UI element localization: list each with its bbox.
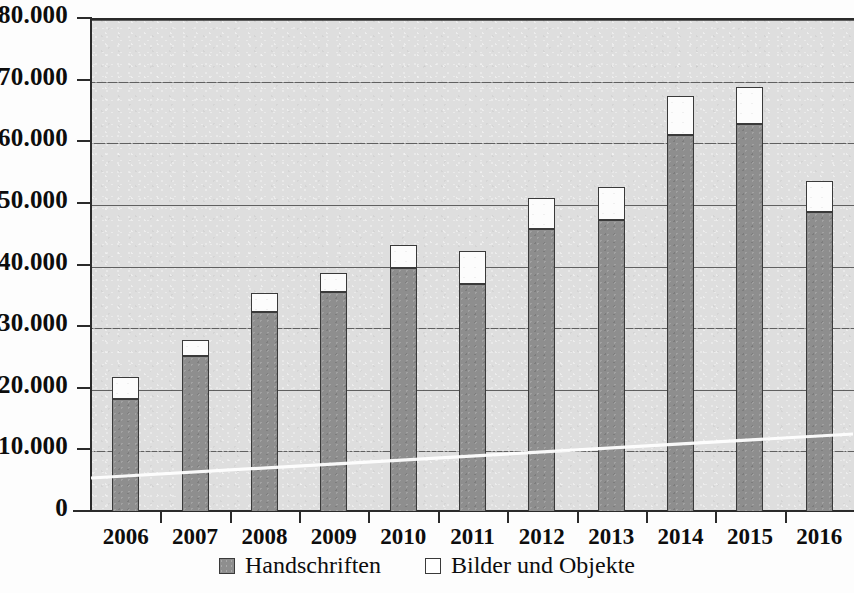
x-axis-tick <box>715 512 717 523</box>
legend-item-label: Handschriften <box>245 552 381 579</box>
legend-item-label: Bilder und Objekte <box>451 552 635 579</box>
bar-group[interactable] <box>112 377 139 511</box>
bar-group[interactable] <box>251 293 278 511</box>
x-axis-tick <box>507 512 509 523</box>
y-axis-tick-label: 80.000 <box>0 1 68 29</box>
x-axis-tick <box>160 512 162 523</box>
bar-segment-bilder-und-objekte[interactable] <box>806 181 833 212</box>
y-axis-tick-label: 70.000 <box>0 63 68 91</box>
y-axis-tick <box>77 140 91 142</box>
white-square-icon <box>425 558 441 574</box>
y-axis-tick <box>77 17 91 19</box>
x-axis-tick-label: 2013 <box>571 524 651 550</box>
bar-segment-bilder-und-objekte[interactable] <box>459 251 486 284</box>
y-axis-tick <box>77 79 91 81</box>
bar-segment-handschriften[interactable] <box>251 312 278 511</box>
x-axis-tick <box>368 512 370 523</box>
bar-group[interactable] <box>806 181 833 511</box>
bar-segment-handschriften[interactable] <box>459 284 486 511</box>
bar-segment-bilder-und-objekte[interactable] <box>390 245 417 267</box>
x-axis-tick <box>230 512 232 523</box>
gray-square-icon <box>219 558 235 574</box>
x-axis-tick-label: 2014 <box>641 524 721 550</box>
y-axis-tick-label: 30.000 <box>0 309 68 337</box>
x-axis-tick <box>646 512 648 523</box>
bar-segment-bilder-und-objekte[interactable] <box>736 87 763 124</box>
bar-group[interactable] <box>736 87 763 511</box>
y-axis-tick <box>77 387 91 389</box>
bar-segment-handschriften[interactable] <box>182 356 209 511</box>
x-axis-tick <box>577 512 579 523</box>
x-axis-tick <box>299 512 301 523</box>
bar-segment-bilder-und-objekte[interactable] <box>598 187 625 219</box>
bar-segment-bilder-und-objekte[interactable] <box>251 293 278 311</box>
bar-segment-bilder-und-objekte[interactable] <box>182 340 209 357</box>
bar-group[interactable] <box>390 245 417 511</box>
bar-segment-handschriften[interactable] <box>598 220 625 511</box>
x-axis-tick-label: 2016 <box>779 524 854 550</box>
y-axis-tick <box>77 325 91 327</box>
x-axis-tick-label: 2009 <box>294 524 374 550</box>
bar-group[interactable] <box>528 198 555 511</box>
bar-segment-bilder-und-objekte[interactable] <box>320 273 347 292</box>
y-axis-tick-label: 40.000 <box>0 248 68 276</box>
x-axis-tick-label: 2015 <box>710 524 790 550</box>
bar-segment-bilder-und-objekte[interactable] <box>112 377 139 400</box>
y-axis-tick <box>77 510 91 512</box>
x-axis-tick-label: 2012 <box>502 524 582 550</box>
chart-legend: HandschriftenBilder und Objekte <box>0 552 854 579</box>
bar-group[interactable] <box>320 273 347 511</box>
bar-segment-handschriften[interactable] <box>112 399 139 511</box>
y-axis-tick <box>77 264 91 266</box>
bar-segment-handschriften[interactable] <box>736 124 763 511</box>
x-axis-tick <box>785 512 787 523</box>
legend-item[interactable]: Bilder und Objekte <box>425 552 635 579</box>
bar-group[interactable] <box>182 340 209 511</box>
legend-item[interactable]: Handschriften <box>219 552 381 579</box>
y-axis-tick-label: 50.000 <box>0 186 68 214</box>
bar-segment-handschriften[interactable] <box>390 268 417 511</box>
gridline <box>91 20 854 21</box>
bar-segment-handschriften[interactable] <box>806 212 833 511</box>
y-axis-tick-label: 60.000 <box>0 124 68 152</box>
bar-segment-handschriften[interactable] <box>320 292 347 511</box>
y-axis-tick-label: 10.000 <box>0 432 68 460</box>
y-axis-tick-label: 0 <box>55 494 68 522</box>
bar-segment-bilder-und-objekte[interactable] <box>528 198 555 229</box>
y-axis-tick <box>77 448 91 450</box>
x-axis-tick-label: 2007 <box>155 524 235 550</box>
bar-segment-handschriften[interactable] <box>667 135 694 511</box>
gridline <box>91 82 854 83</box>
bar-segment-bilder-und-objekte[interactable] <box>667 96 694 135</box>
bar-group[interactable] <box>667 96 694 511</box>
y-axis-tick <box>77 202 91 204</box>
bar-chart: 010.00020.00030.00040.00050.00060.00070.… <box>0 0 854 593</box>
x-axis-tick-label: 2006 <box>86 524 166 550</box>
bar-group[interactable] <box>598 187 625 511</box>
x-axis-tick-label: 2008 <box>224 524 304 550</box>
x-axis-tick <box>438 512 440 523</box>
bar-group[interactable] <box>459 251 486 511</box>
bar-segment-handschriften[interactable] <box>528 229 555 511</box>
x-axis-tick-label: 2010 <box>363 524 443 550</box>
y-axis-tick-label: 20.000 <box>0 371 68 399</box>
x-axis-tick-label: 2011 <box>433 524 513 550</box>
